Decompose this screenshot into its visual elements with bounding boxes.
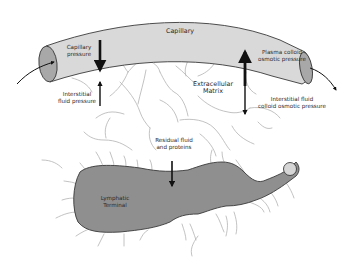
interstitial-fluid-colloid-osmotic-pressure-label: Interstitial fluid colloid osmotic press… — [249, 96, 335, 109]
lymphatic-terminal-label: Lymphatic Terminal — [90, 195, 140, 208]
starling-forces-diagram — [0, 0, 351, 257]
extracellular-matrix-label: Extracellular Matrix — [187, 81, 239, 96]
interstitial-fluid-pressure-label: Interstitial fluid pressure — [56, 91, 98, 104]
capillary-pressure-label: Capillary pressure — [60, 44, 98, 57]
plasma-colloid-osmotic-pressure-label: Plasma colloid osmotic pressure — [254, 49, 310, 62]
blood-outflow-arrow — [310, 68, 336, 90]
residual-fluid-and-proteins-label: Residual fluid and proteins — [150, 137, 198, 150]
lymphatic-tip — [284, 163, 297, 176]
capillary-label: Capillary — [155, 28, 205, 35]
